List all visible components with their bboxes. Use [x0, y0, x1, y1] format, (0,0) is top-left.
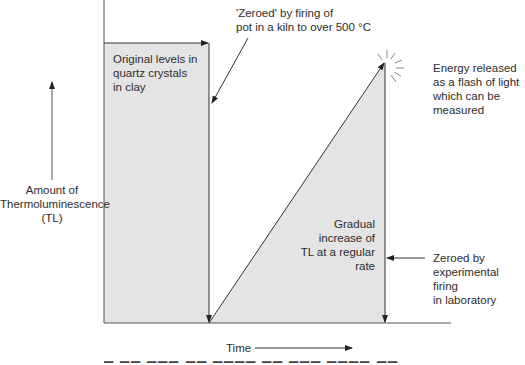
text-line: quartz crystals — [113, 66, 197, 80]
text-line: Amount of — [0, 183, 104, 197]
energy-released-label: Energy released as a flash of light whic… — [433, 61, 519, 117]
caption-cutoff: ▔ ▔▔ ▔▔▔ ▔▔ ▔▔▔▔ ▔▔ ▔▔▔ ▔▔▔▔ ▔▔ ▔▔▔▔▔ — [104, 361, 434, 365]
text-line: increase of — [280, 231, 375, 245]
text-line: pot in a kiln to over 500 °C — [236, 20, 371, 34]
text-line: Thermoluminescence — [0, 197, 104, 211]
original-levels-label: Original levels in quartz crystals in cl… — [113, 52, 197, 94]
text-line: Gradual — [280, 217, 375, 231]
kiln-leader-arrow — [212, 38, 248, 103]
zeroed-kiln-label: 'Zeroed' by firing of pot in a kiln to o… — [236, 6, 371, 34]
text-line: 'Zeroed' by firing of — [236, 6, 371, 20]
y-axis-label: Amount of Thermoluminescence (TL) — [0, 183, 104, 225]
text-line: as a flash of light — [433, 75, 519, 89]
zeroed-lab-label: Zeroed by experimental firing in laborat… — [433, 251, 525, 307]
gradual-increase-label: Gradual increase of TL at a regular rate — [280, 217, 375, 273]
text-line: which can be — [433, 89, 519, 103]
text-line: Original levels in — [113, 52, 197, 66]
text-line: (TL) — [0, 211, 104, 225]
text-line: in clay — [113, 80, 197, 94]
text-line: rate — [280, 259, 375, 273]
text-line: Zeroed by — [433, 251, 525, 265]
x-axis-label: Time — [226, 341, 251, 355]
text-line: TL at a regular — [280, 245, 375, 259]
text-line: Energy released — [433, 61, 519, 75]
text-line: measured — [433, 103, 519, 117]
text-line: experimental firing — [433, 265, 525, 293]
text-line: in laboratory — [433, 293, 525, 307]
